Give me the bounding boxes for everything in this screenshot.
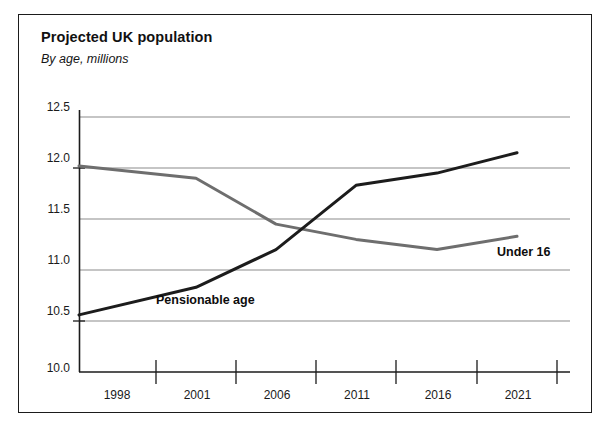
x-axis-label-1998: 1998 — [82, 388, 152, 402]
series-annotation-pensionable-age: Pensionable age — [156, 293, 255, 307]
y-axis-label-10.0: 10.0 — [26, 361, 70, 375]
y-axis-label-12.0: 12.0 — [26, 151, 70, 165]
series-line-pensionable-age — [79, 153, 517, 315]
x-axis-label-2011: 2011 — [322, 388, 392, 402]
chart-figure: Projected UK population By age, millions — [0, 0, 611, 427]
x-axis-label-2016: 2016 — [403, 388, 473, 402]
x-axis-label-2006: 2006 — [242, 388, 312, 402]
x-axis-label-2021: 2021 — [483, 388, 553, 402]
y-axis-label-12.5: 12.5 — [26, 100, 70, 114]
gridlines — [79, 117, 570, 321]
series-line-under-16 — [79, 166, 517, 250]
chart-plot-area — [0, 0, 611, 427]
y-axis-label-11.0: 11.0 — [26, 253, 70, 267]
y-axis-label-11.5: 11.5 — [26, 202, 70, 216]
y-axis-label-10.5: 10.5 — [26, 304, 70, 318]
series-annotation-under-16: Under 16 — [497, 245, 551, 259]
x-axis-label-2001: 2001 — [162, 388, 232, 402]
